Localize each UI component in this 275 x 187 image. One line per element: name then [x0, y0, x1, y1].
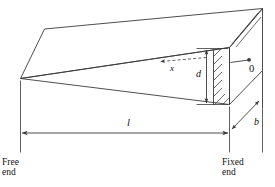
origin-label: 0 [249, 63, 254, 74]
width-label: b [254, 117, 259, 128]
length-label: l [127, 117, 130, 128]
fixed-end-label-line2: end [222, 168, 244, 178]
x-distance-label: x [170, 64, 174, 73]
beam-top-face [21, 9, 263, 79]
fixed-end-label: Fixed end [222, 158, 244, 178]
origin-leader-line [231, 60, 249, 63]
free-end-label: Free end [2, 158, 19, 178]
x-distance-dashed-arrow [161, 58, 207, 62]
beam-figure: Free end Fixed end l d b x 0 [0, 0, 275, 187]
free-end-label-line2: end [2, 168, 19, 178]
depth-label: d [196, 69, 201, 80]
origin-point-dot [247, 58, 251, 62]
beam-fixed-end-face [230, 9, 263, 105]
fixed-end-face-hatching [232, 13, 261, 47]
